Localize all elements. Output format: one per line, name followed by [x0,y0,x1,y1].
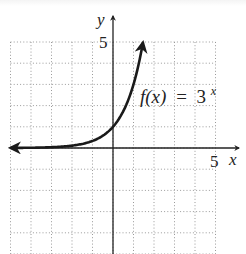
svg-text:f(x) = 3 x: f(x) = 3 x [140,84,217,108]
function-label: f(x) = 3 x [140,84,217,108]
function-label-exponent: x [210,84,217,98]
y-tick-label-5: 5 [99,33,108,52]
axes [11,16,240,254]
graph-exponential-function: y 5 5 x f(x) = 3 x [0,0,246,254]
x-axis-label: x [228,150,237,169]
function-label-fx: f(x) [140,86,166,108]
function-curve [11,43,143,148]
function-label-equals: = [176,86,187,107]
function-label-base: 3 [197,86,207,107]
y-axis-label: y [95,10,105,29]
x-tick-label-5: 5 [210,152,219,171]
